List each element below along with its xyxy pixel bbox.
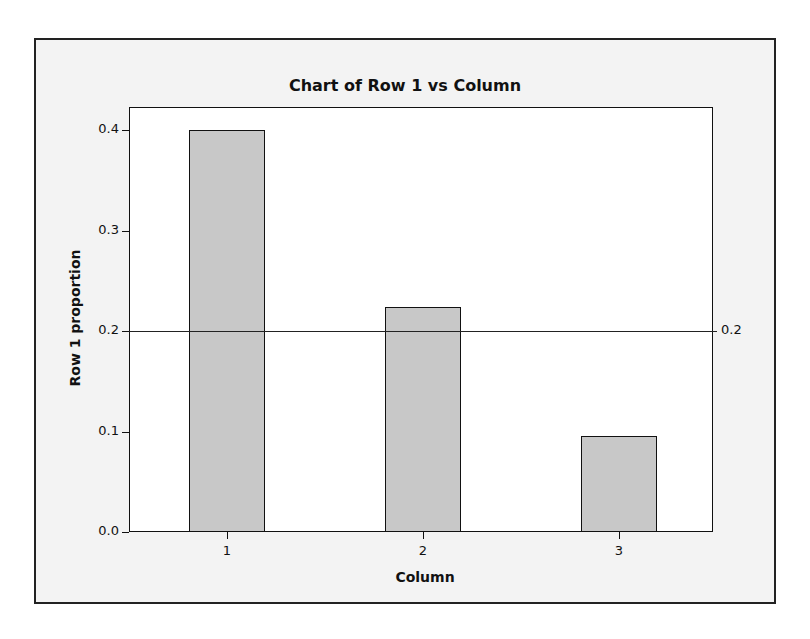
x-tick	[227, 532, 228, 539]
reference-line	[129, 331, 717, 332]
x-tick	[423, 532, 424, 539]
x-tick	[619, 532, 620, 539]
y-tick-label: 0.0	[79, 523, 119, 538]
y-axis-title: Row 1 proportion	[67, 238, 83, 398]
y-tick-label: 0.2	[79, 322, 119, 337]
y-tick	[122, 231, 129, 232]
x-tick-label: 1	[212, 543, 242, 558]
bar-column-3	[581, 436, 657, 532]
y-tick	[122, 130, 129, 131]
x-tick-label: 3	[604, 543, 634, 558]
x-tick-label: 2	[408, 543, 438, 558]
chart-title: Chart of Row 1 vs Column	[0, 76, 810, 95]
bar-column-2	[385, 307, 461, 532]
y-tick	[122, 532, 129, 533]
y-tick-label: 0.1	[79, 423, 119, 438]
y-tick	[122, 432, 129, 433]
y-tick-label: 0.3	[79, 222, 119, 237]
x-axis-title: Column	[325, 569, 525, 585]
reference-line-label: 0.2	[721, 322, 742, 337]
y-tick	[122, 331, 129, 332]
y-tick-label: 0.4	[79, 121, 119, 136]
